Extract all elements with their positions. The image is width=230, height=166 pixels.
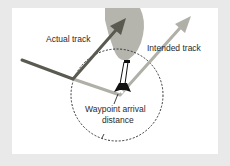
waypoint-diagram xyxy=(0,0,230,166)
intended-track-label: Intended track xyxy=(147,43,201,53)
actual-track-label: Actual track xyxy=(46,34,90,44)
waypoint-label-line2: distance xyxy=(102,115,134,125)
aircraft-icon xyxy=(114,60,131,94)
waypoint-label-line1: Waypoint arrival xyxy=(85,104,146,114)
distance-pointer xyxy=(102,134,104,138)
waypoint-pointer xyxy=(114,94,118,104)
